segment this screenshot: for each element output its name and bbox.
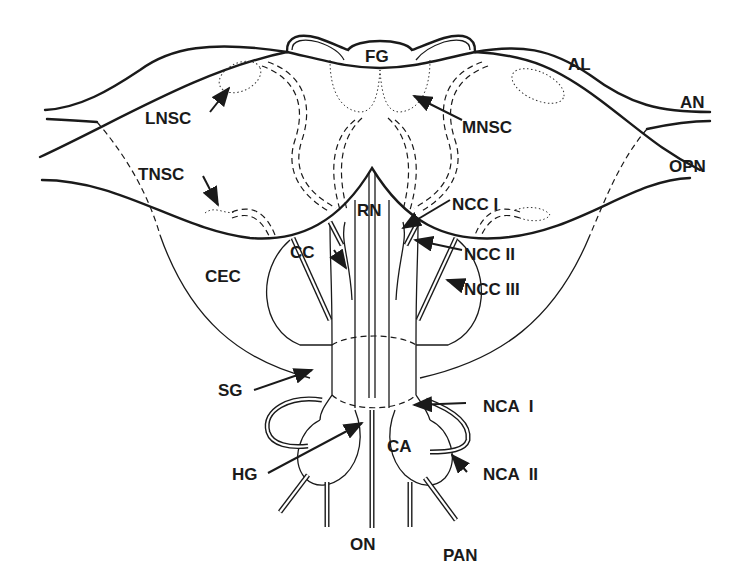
corpora-allata bbox=[267, 399, 468, 485]
label-opn: OPN bbox=[669, 157, 706, 176]
label-rn: RN bbox=[357, 201, 382, 220]
label-hg: HG bbox=[232, 465, 258, 484]
circumesophageal-outline bbox=[97, 122, 647, 378]
label-an: AN bbox=[680, 93, 705, 112]
label-on: ON bbox=[350, 535, 376, 554]
label-cc: CC bbox=[290, 243, 315, 262]
label-pan: PAN bbox=[443, 546, 478, 565]
label-ca: CA bbox=[387, 437, 412, 456]
label-fg: FG bbox=[365, 47, 389, 66]
label-ncc1: NCC I bbox=[452, 195, 498, 214]
label-nca2: NCA II bbox=[483, 465, 538, 484]
label-tnsc: TNSC bbox=[138, 165, 184, 184]
lower-nerves bbox=[280, 410, 456, 528]
label-cec: CEC bbox=[205, 267, 241, 286]
neurosecretory-clusters bbox=[205, 55, 569, 221]
label-lnsc: LNSC bbox=[145, 109, 191, 128]
label-mnsc: MNSC bbox=[462, 118, 512, 137]
label-al: AL bbox=[568, 55, 591, 74]
label-sg: SG bbox=[218, 381, 243, 400]
label-ncc2: NCC II bbox=[464, 245, 515, 264]
label-nca1: NCA I bbox=[483, 397, 533, 416]
anatomical-diagram: FG AL AN LNSC MNSC OPN TNSC RN NCC I NCC… bbox=[0, 0, 744, 581]
leader-arrows bbox=[203, 88, 467, 473]
label-ncc3: NCC III bbox=[464, 280, 520, 299]
